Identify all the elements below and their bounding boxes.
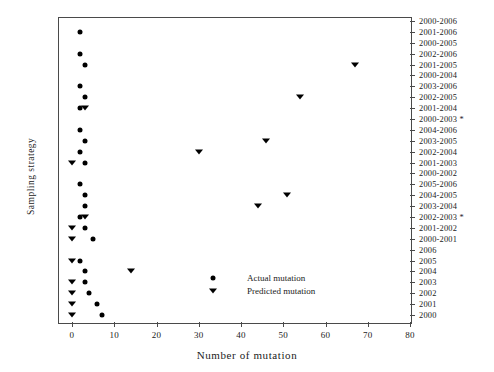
y-tick: [410, 97, 415, 98]
y-tick: [410, 315, 415, 316]
actual-mutation-marker: [78, 182, 83, 187]
y-tick: [410, 282, 415, 283]
predicted-mutation-marker: [68, 291, 76, 296]
x-tick-label: 30: [194, 330, 204, 340]
y-category-label: 2004-2005: [419, 191, 457, 200]
predicted-mutation-marker: [68, 258, 76, 263]
y-tick: [410, 119, 415, 120]
predicted-mutation-marker: [68, 225, 76, 230]
y-category-label: 2002-2004: [419, 147, 457, 156]
y-tick: [410, 206, 415, 207]
x-tick: [72, 322, 73, 327]
predicted-mutation-marker: [68, 280, 76, 285]
y-tick: [410, 293, 415, 294]
actual-mutation-marker: [86, 291, 91, 296]
chart-legend: Actual mutationPredicted mutation: [205, 272, 355, 298]
x-tick: [368, 322, 369, 327]
y-category-label: 2003-2004: [419, 202, 457, 211]
actual-mutation-marker: [78, 106, 83, 111]
x-tick-label: 40: [236, 330, 246, 340]
x-tick-label: 0: [70, 330, 75, 340]
actual-mutation-marker: [82, 62, 87, 67]
x-axis-title: Number of mutation: [0, 349, 494, 361]
y-tick: [410, 86, 415, 87]
predicted-mutation-marker: [283, 193, 291, 198]
x-tick: [114, 322, 115, 327]
y-category-label: 2005: [419, 256, 437, 265]
y-category-label: 2000-2005: [419, 38, 457, 47]
actual-mutation-marker: [78, 258, 83, 263]
y-tick: [410, 239, 415, 240]
y-category-label: 2001-2003: [419, 158, 457, 167]
y-category-label: 2003-2006: [419, 82, 457, 91]
y-tick: [410, 65, 415, 66]
y-category-label: 2001-2002: [419, 223, 457, 232]
y-category-label: 2000-2004: [419, 71, 457, 80]
legend-label: Predicted mutation: [247, 286, 315, 296]
actual-mutation-marker: [82, 204, 87, 209]
y-category-label: 2000-2002: [419, 169, 457, 178]
predicted-mutation-marker: [351, 62, 359, 67]
y-tick: [410, 195, 415, 196]
x-tick: [199, 322, 200, 327]
y-tick: [410, 217, 415, 218]
y-category-label: 2001: [419, 300, 437, 309]
y-tick: [410, 75, 415, 76]
actual-mutation-marker: [78, 149, 83, 154]
predicted-mutation-marker: [68, 302, 76, 307]
y-category-label: 2001-2006: [419, 27, 457, 36]
predicted-mutation-marker: [254, 204, 262, 209]
y-category-label: 2005-2006: [419, 180, 457, 189]
y-tick: [410, 32, 415, 33]
actual-mutation-marker: [82, 225, 87, 230]
y-tick: [410, 261, 415, 262]
legend-predicted-marker-icon: [209, 289, 217, 294]
y-tick: [410, 21, 415, 22]
y-category-label: 2004-2006: [419, 125, 457, 134]
x-tick: [410, 322, 411, 327]
x-tick: [241, 322, 242, 327]
x-tick: [283, 322, 284, 327]
y-category-label: 2002: [419, 289, 437, 298]
y-tick: [410, 228, 415, 229]
y-category-label: 2004: [419, 267, 437, 276]
y-category-label: 2000-2006: [419, 17, 457, 26]
y-tick: [410, 54, 415, 55]
actual-mutation-marker: [78, 215, 83, 220]
actual-mutation-marker: [82, 95, 87, 100]
x-tick: [326, 322, 327, 327]
y-tick: [410, 108, 415, 109]
actual-mutation-marker: [82, 160, 87, 165]
x-tick-label: 50: [278, 330, 288, 340]
actual-mutation-marker: [82, 193, 87, 198]
actual-mutation-marker: [78, 127, 83, 132]
x-tick-label: 80: [405, 330, 415, 340]
x-tick-label: 70: [363, 330, 373, 340]
y-tick: [410, 304, 415, 305]
actual-mutation-marker: [82, 280, 87, 285]
y-category-label: 2002-2006: [419, 49, 457, 58]
y-tick: [410, 184, 415, 185]
predicted-mutation-marker: [262, 138, 270, 143]
y-category-label: 2001-2004: [419, 104, 457, 113]
y-category-label: 2006: [419, 245, 437, 254]
y-tick: [410, 152, 415, 153]
predicted-mutation-marker: [68, 160, 76, 165]
predicted-mutation-marker: [68, 313, 76, 318]
actual-mutation-marker: [91, 236, 96, 241]
predicted-mutation-marker: [68, 236, 76, 241]
y-category-label: 2003-2005: [419, 136, 457, 145]
x-tick-label: 20: [152, 330, 162, 340]
y-tick: [410, 271, 415, 272]
predicted-mutation-marker: [296, 95, 304, 100]
actual-mutation-marker: [82, 269, 87, 274]
predicted-mutation-marker: [195, 149, 203, 154]
actual-mutation-marker: [82, 138, 87, 143]
y-category-label: 2000-2001: [419, 234, 457, 243]
y-tick: [410, 130, 415, 131]
y-category-label: 2002-2003 *: [419, 213, 464, 222]
y-category-label: 2003: [419, 278, 437, 287]
y-tick: [410, 43, 415, 44]
y-category-label: 2001-2005: [419, 60, 457, 69]
actual-mutation-marker: [78, 84, 83, 89]
